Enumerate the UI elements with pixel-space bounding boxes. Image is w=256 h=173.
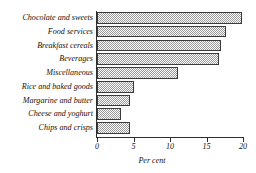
x-axis-title: Per cent — [0, 156, 256, 165]
category-label: Chips and crisps — [0, 122, 93, 134]
x-axis-tick-label: 5 — [131, 142, 135, 152]
bar-row — [97, 122, 243, 134]
plot-area — [97, 12, 243, 137]
bar-chart: Chocolate and sweets Food services Break… — [0, 0, 256, 173]
bar — [97, 12, 242, 24]
bar — [97, 26, 226, 38]
category-label: Chocolate and sweets — [0, 12, 93, 24]
category-label: Rice and baked goods — [0, 81, 93, 93]
category-label: Cheese and yoghurt — [0, 108, 93, 120]
bar — [97, 108, 121, 120]
category-label: Margarine and butter — [0, 95, 93, 107]
x-axis-tick-label: 0 — [95, 142, 99, 152]
bar-row — [97, 26, 243, 38]
bar-row — [97, 95, 243, 107]
x-axis-tick-label: 15 — [202, 142, 210, 152]
category-label: Food services — [0, 26, 93, 38]
bar — [97, 53, 219, 65]
bar — [97, 40, 221, 52]
category-label: Breakfast cereals — [0, 40, 93, 52]
category-axis-labels: Chocolate and sweets Food services Break… — [0, 12, 93, 137]
bar-row — [97, 53, 243, 65]
bar — [97, 67, 178, 79]
bar-row — [97, 108, 243, 120]
bar-row — [97, 40, 243, 52]
x-axis-tick-label: 20 — [239, 142, 247, 152]
y-axis-line — [96, 11, 97, 138]
bar-row — [97, 67, 243, 79]
bar-row — [97, 12, 243, 24]
x-axis-tick-label: 10 — [166, 142, 174, 152]
category-label: Beverages — [0, 53, 93, 65]
bar — [97, 81, 134, 93]
category-label: Miscellaneous — [0, 67, 93, 79]
bar — [97, 95, 130, 107]
bar-row — [97, 81, 243, 93]
bar — [97, 122, 130, 134]
